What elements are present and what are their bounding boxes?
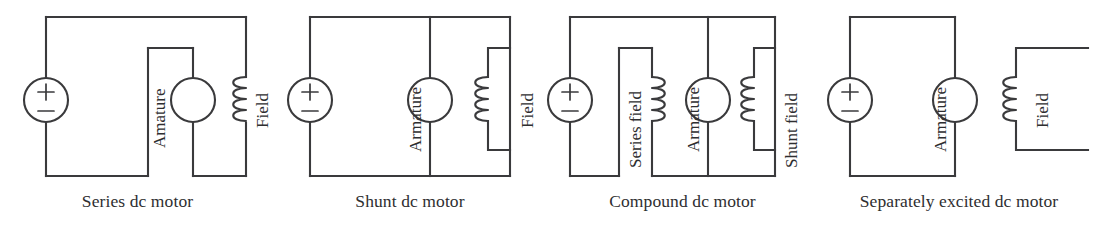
armature-label: Armature bbox=[684, 87, 703, 152]
field-label: Field bbox=[518, 93, 537, 128]
circuit-shunt-dc-motor: Armature Field Shunt dc motor bbox=[275, 0, 545, 226]
armature-label: Armature bbox=[931, 87, 950, 152]
field-label: Field bbox=[253, 93, 272, 128]
field-upper-lead bbox=[488, 48, 510, 77]
shunt-field-label: Shunt field bbox=[782, 92, 801, 168]
field-coil bbox=[1003, 77, 1016, 121]
compound-circuit-svg: Series field Armature Shunt field bbox=[545, 0, 820, 195]
field-upper-lead bbox=[1016, 48, 1088, 77]
armature-label: Armature bbox=[406, 87, 425, 152]
field-coil bbox=[475, 77, 488, 121]
separately-excited-circuit-svg: Armature Field bbox=[820, 0, 1098, 195]
circuit-compound-dc-motor: Series field Armature Shunt field Compou… bbox=[545, 0, 820, 226]
shunt-field-upper-lead bbox=[754, 48, 775, 77]
armature-label: Amature bbox=[150, 89, 169, 148]
shunt-field-lower-lead bbox=[754, 121, 775, 150]
circuit-caption: Series dc motor bbox=[0, 191, 275, 212]
circuit-caption: Shunt dc motor bbox=[275, 191, 545, 212]
field-lower-lead bbox=[488, 121, 510, 150]
shunt-circuit-svg: Armature Field bbox=[275, 0, 545, 195]
shunt-field-coil bbox=[741, 77, 754, 121]
circuit-caption: Compound dc motor bbox=[545, 191, 820, 212]
series-circuit-svg: Amature Field bbox=[0, 0, 275, 195]
field-label: Field bbox=[1033, 93, 1052, 128]
circuit-series-dc-motor: Amature Field Series dc motor bbox=[0, 0, 275, 226]
circuit-caption: Separately excited dc motor bbox=[820, 191, 1098, 212]
field-coil bbox=[233, 77, 246, 121]
field-lower-lead bbox=[1016, 121, 1088, 150]
series-field-label: Series field bbox=[626, 91, 645, 168]
armature-symbol bbox=[171, 78, 215, 122]
dc-motor-figure: Amature Field Series dc motor Armature bbox=[0, 0, 1098, 226]
series-field-coil bbox=[652, 77, 665, 121]
circuit-separately-excited-dc-motor: Armature Field Separately excited dc mot… bbox=[820, 0, 1098, 226]
